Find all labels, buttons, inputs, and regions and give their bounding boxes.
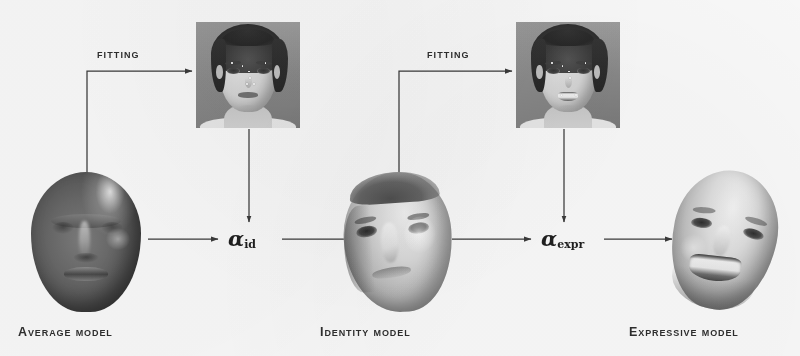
photo-ear-left <box>536 65 542 79</box>
mask-eye-right <box>742 226 765 241</box>
neutral-photo <box>196 22 300 128</box>
photo-eye-left <box>547 68 560 74</box>
mask-lips <box>64 267 108 281</box>
edge-label-fitting-2: Fitting <box>427 47 470 61</box>
caption-expressive-model: Expressive Model <box>629 325 739 339</box>
mask-bottom-shadow <box>667 264 756 317</box>
edge-fitting-2 <box>399 71 512 178</box>
alpha-subscript: expr <box>557 238 584 251</box>
parameter-alpha-expr: αexpr <box>541 226 584 251</box>
photo-mouth <box>238 92 259 98</box>
landmark-dot <box>569 77 571 79</box>
mask-eye-left <box>690 217 712 229</box>
mask-hairline <box>348 169 441 206</box>
photo-nose <box>245 74 252 88</box>
photo-eye-right <box>577 68 590 74</box>
photo-eye-left <box>227 68 240 74</box>
mask-brow-right <box>744 215 768 228</box>
photo-hair-fringe <box>541 29 595 46</box>
mask-cheek-highlight <box>403 216 438 255</box>
photo-eye-right <box>257 68 270 74</box>
landmark-dot <box>575 94 577 96</box>
mask-cheek-highlight <box>106 228 130 250</box>
edge-fitting-1 <box>87 71 192 178</box>
photo-hair-fringe <box>221 29 275 46</box>
landmark-dot <box>265 62 267 64</box>
caption-average-model: Average Model <box>18 325 113 339</box>
landmark-dot <box>253 83 255 85</box>
alpha-symbol: α <box>228 226 244 251</box>
landmark-dot <box>585 62 587 64</box>
identity-model <box>344 172 452 312</box>
identity-model-mask <box>339 168 457 315</box>
mask-eye-left <box>52 222 74 233</box>
pipeline-figure: Fitting Fitting <box>0 0 800 356</box>
expressive-model-mask <box>659 161 790 320</box>
mask-nose-ridge <box>79 221 90 257</box>
parameter-alpha-id: αid <box>228 226 256 251</box>
mask-nostrils <box>73 253 99 263</box>
landmark-dot <box>231 62 233 64</box>
landmark-dot <box>551 62 553 64</box>
edge-label-fitting-1: Fitting <box>97 47 140 61</box>
caption-identity-model: Identity Model <box>320 325 411 339</box>
average-model <box>31 172 141 312</box>
mask-brow-left <box>692 206 715 214</box>
landmark-dot <box>246 83 248 85</box>
mask-mouth <box>371 265 411 281</box>
mask-nose <box>710 224 733 258</box>
average-model-mask <box>31 172 141 312</box>
photo-nose <box>565 74 572 88</box>
alpha-symbol: α <box>541 226 557 251</box>
photo-ear-left <box>216 65 222 79</box>
smiling-photo <box>516 22 620 128</box>
alpha-subscript: id <box>244 238 256 251</box>
expressive-model <box>672 170 776 310</box>
mask-nose <box>379 222 399 262</box>
landmark-dot <box>249 77 251 79</box>
